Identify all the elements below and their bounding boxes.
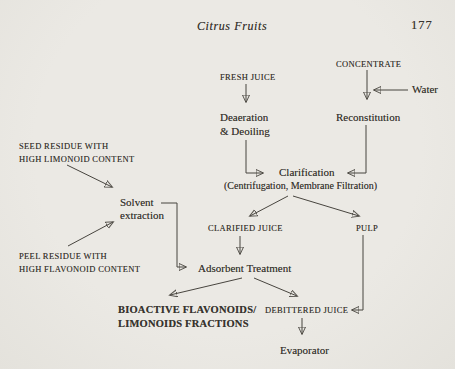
node-reconstitution: Reconstitution (336, 110, 400, 124)
scanned-book-page: Citrus Fruits 177 FRESH JUICE CONCENTRAT… (0, 0, 455, 369)
node-seed-residue-line1: SEED RESIDUE WITH (19, 140, 134, 153)
node-adsorbent-treatment: Adsorbent Treatment (198, 261, 291, 275)
node-pulp: PULP (356, 222, 378, 235)
node-solvent-line2: extraction (120, 209, 164, 222)
node-water: Water (412, 82, 438, 96)
node-peel-residue: PEEL RESIDUE WITH HIGH FLAVONOID CONTENT (19, 250, 140, 276)
arrow-clarification-to-clarified-juice (250, 196, 288, 216)
node-clarified-juice: CLARIFIED JUICE (208, 222, 283, 235)
arrow-clarification-to-pulp (293, 196, 359, 216)
node-peel-residue-line1: PEEL RESIDUE WITH (19, 250, 140, 263)
node-evaporator: Evaporator (280, 343, 329, 357)
node-concentrate: CONCENTRATE (336, 58, 401, 71)
arrow-peel-residue-to-solvent (68, 222, 113, 246)
node-seed-residue-line2: HIGH LIMONOID CONTENT (19, 153, 134, 166)
node-deaeration-line1: Deaeration (220, 110, 270, 124)
arrow-adsorbent-to-bioactive (170, 278, 242, 295)
node-debittered-juice: DEBITTERED JUICE (265, 304, 348, 317)
arrow-deaeration-to-clarification (246, 140, 263, 173)
node-bioactive-fractions: BIOACTIVE FLAVONOIDS/ LIMONOIDS FRACTION… (118, 303, 256, 330)
node-deaeration-deoiling: Deaeration & Deoiling (220, 110, 270, 138)
arrow-adsorbent-to-debittered (254, 278, 297, 296)
node-clarification: Clarification (279, 165, 335, 179)
arrow-seed-residue-to-solvent (67, 165, 112, 187)
node-peel-residue-line2: HIGH FLAVONOID CONTENT (19, 263, 140, 276)
node-bioactive-line2: LIMONOIDS FRACTIONS (118, 317, 256, 331)
arrow-solvent-to-adsorbent (161, 203, 186, 267)
node-clarification-methods: (Centrifugation, Membrane Filtration) (224, 180, 377, 191)
arrow-pulp-to-debittered (352, 235, 363, 310)
node-solvent-line1: Solvent (120, 196, 164, 209)
node-seed-residue: SEED RESIDUE WITH HIGH LIMONOID CONTENT (19, 140, 134, 166)
node-bioactive-line1: BIOACTIVE FLAVONOIDS/ (118, 303, 256, 317)
node-fresh-juice: FRESH JUICE (220, 71, 276, 84)
node-solvent-extraction: Solvent extraction (120, 196, 164, 222)
arrow-reconstitution-to-clarification (348, 125, 366, 173)
node-deaeration-line2: & Deoiling (220, 124, 270, 138)
